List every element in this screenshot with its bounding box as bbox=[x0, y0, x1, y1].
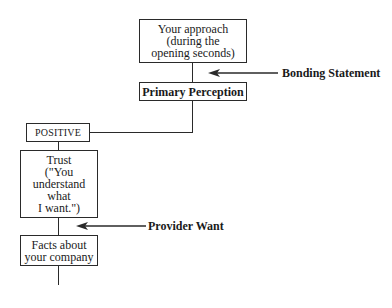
connector-facts-down bbox=[58, 266, 59, 285]
approach-box: Your approach (during the opening second… bbox=[139, 19, 247, 63]
bonding-statement-label: Bonding Statement bbox=[282, 66, 380, 81]
trust-box: Trust ("You understand what I want.") bbox=[20, 150, 98, 218]
facts-box: Facts about your company bbox=[20, 235, 98, 266]
connector-positive-to-trust bbox=[58, 142, 59, 150]
positive-box: POSITIVE bbox=[26, 123, 90, 142]
connector-approach-to-perception bbox=[192, 63, 193, 82]
connector-trust-to-facts bbox=[58, 218, 59, 235]
provider-want-label: Provider Want bbox=[148, 219, 224, 234]
primary-perception-box: Primary Perception bbox=[139, 82, 247, 101]
connector-perception-down bbox=[192, 101, 193, 133]
bonding-statement-arrow-icon bbox=[208, 68, 280, 78]
connector-horizontal-to-positive bbox=[90, 132, 193, 133]
provider-want-arrow-icon bbox=[76, 221, 148, 231]
